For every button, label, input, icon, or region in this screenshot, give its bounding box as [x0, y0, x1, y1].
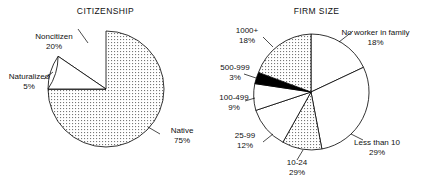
pie-label-100-499-name: 100-499: [219, 93, 248, 102]
pie-label-no-worker-pct: 18%: [329, 38, 422, 48]
pie-label-naturalized: Naturalized 5%: [0, 72, 61, 91]
pie-label-less-than-10: Less than 10 29%: [339, 138, 415, 157]
pie-label-noncitizen: Noncitizen 20%: [18, 32, 90, 51]
pie-label-native-pct: 75%: [159, 136, 205, 146]
pie-label-noncitizen-name: Noncitizen: [35, 32, 72, 41]
pie-label-25-99-pct: 12%: [223, 141, 267, 151]
pie-label-naturalized-name: Naturalized: [9, 72, 49, 81]
pie-label-500-999-pct: 3%: [205, 73, 265, 83]
pie-label-25-99-name: 25-99: [235, 131, 255, 140]
pie-label-no-worker-in-family: No worker in family 18%: [329, 28, 422, 47]
pie-label-10-24-name: 10-24: [287, 158, 307, 167]
pie-label-less-than-10-pct: 29%: [339, 148, 415, 158]
pie-label-native: Native 75%: [159, 126, 205, 145]
pie-label-10-24: 10-24 29%: [275, 158, 319, 177]
pie-label-1000-plus: 1000+ 18%: [216, 26, 278, 45]
chart-firmsize: FIRM SIZE: [211, 0, 422, 178]
pie-label-less-than-10-name: Less than 10: [354, 138, 400, 147]
figure-two-pie-charts: CITIZENSHIP Noncitizen 20%: [0, 0, 422, 178]
pie-label-1000-plus-name: 1000+: [236, 26, 258, 35]
pie-label-500-999: 500-999 3%: [205, 63, 265, 82]
pie-label-25-99: 25-99 12%: [223, 131, 267, 150]
pie-label-500-999-name: 500-999: [220, 63, 249, 72]
pie-label-no-worker-name: No worker in family: [341, 28, 409, 37]
pie-label-100-499: 100-499 9%: [205, 93, 263, 112]
chart-citizenship: CITIZENSHIP Noncitizen 20%: [0, 0, 211, 178]
pie-label-naturalized-pct: 5%: [0, 82, 61, 92]
pie-label-noncitizen-pct: 20%: [18, 42, 90, 52]
pie-label-1000-plus-pct: 18%: [216, 36, 278, 46]
pie-label-10-24-pct: 29%: [275, 168, 319, 178]
pie-label-native-name: Native: [171, 126, 194, 135]
pie-label-100-499-pct: 9%: [205, 103, 263, 113]
